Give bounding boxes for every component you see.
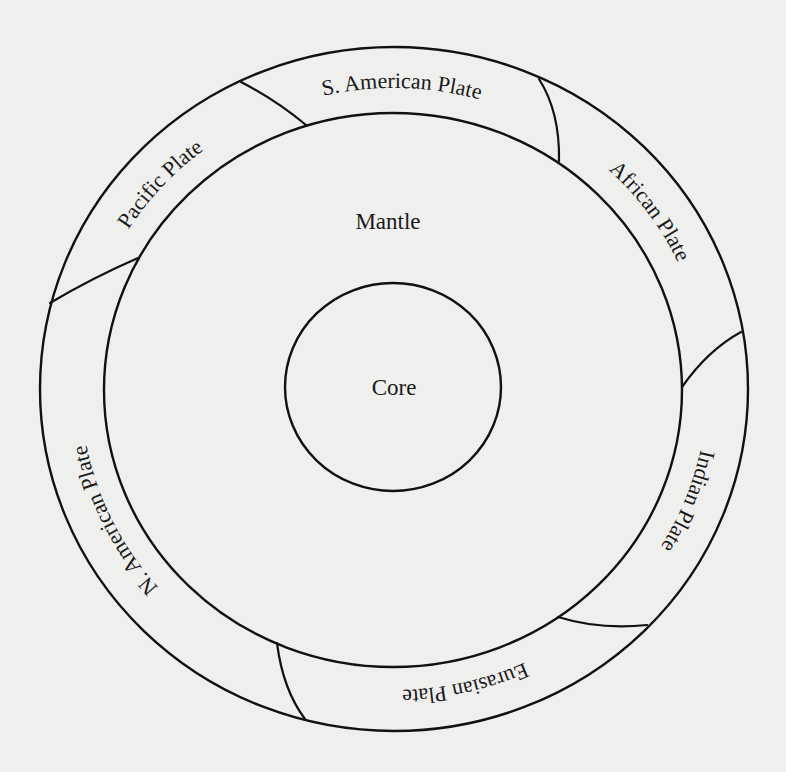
plate-label-african: African Plate [605, 155, 696, 265]
plate-label-s-american: S. American Plate [319, 68, 485, 104]
plate-label-pacific: Pacific Plate [112, 134, 207, 233]
plate-label-african-text: African Plate [605, 155, 696, 265]
boundary-african-indian [682, 332, 741, 387]
boundary-pacific-s-american [241, 82, 306, 125]
boundary-eurasian-n-american [277, 643, 305, 719]
earth-plates-diagram: Mantle Core Indian Plate Eurasian Plate … [0, 0, 786, 772]
plate-label-s-american-text: S. American Plate [319, 68, 485, 104]
boundary-indian-eurasian [558, 617, 647, 626]
boundary-s-american-african [539, 79, 559, 161]
mantle-label: Mantle [355, 209, 420, 234]
plate-label-pacific-text: Pacific Plate [112, 134, 207, 233]
core-label: Core [372, 375, 417, 400]
